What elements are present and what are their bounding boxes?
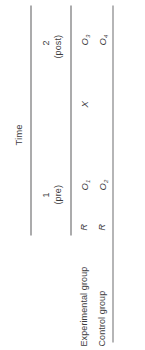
column-header-time2-qualifier: (post) <box>52 34 63 58</box>
post-observation-control: O4 <box>96 34 109 45</box>
figure-frame: Time 1 (pre) 2 (post) Experimental group… <box>0 0 145 350</box>
post-observation-experimental: O3 <box>78 34 91 45</box>
rotation-wrapper: Time 1 (pre) 2 (post) Experimental group… <box>0 0 145 350</box>
pre-observation-experimental: O1 <box>78 179 91 190</box>
column-header-rule <box>70 5 71 235</box>
time-spanner-label: Time <box>12 124 23 145</box>
assignment-marker-experimental: R <box>78 223 89 230</box>
post-observation-experimental-subscript: 3 <box>84 34 90 37</box>
pre-observation-control-subscript: 2 <box>102 179 108 182</box>
column-header-time1-number: 1 <box>40 192 51 197</box>
pre-observation-control: O2 <box>96 179 109 190</box>
pre-observation-experimental-symbol: O <box>78 183 89 191</box>
row-label-control-group: Control group <box>96 290 107 346</box>
pre-observation-experimental-subscript: 1 <box>84 179 90 182</box>
column-header-time1-qualifier: (pre) <box>52 184 63 204</box>
post-observation-control-subscript: 4 <box>102 34 108 37</box>
assignment-marker-control: R <box>96 223 107 230</box>
time-spanner-rule <box>30 5 31 235</box>
treatment-marker-experimental: X <box>78 101 89 107</box>
pre-observation-control-symbol: O <box>96 183 107 191</box>
row-label-experimental-group: Experimental group <box>78 266 89 346</box>
design-notation-table: Time 1 (pre) 2 (post) Experimental group… <box>0 0 145 350</box>
post-observation-experimental-symbol: O <box>78 38 89 46</box>
column-header-time2-number: 2 <box>40 40 51 45</box>
post-observation-control-symbol: O <box>96 38 107 46</box>
table-baseline-rule <box>112 5 113 342</box>
